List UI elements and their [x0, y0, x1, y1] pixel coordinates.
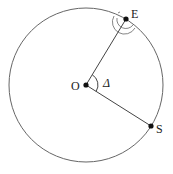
label-e: E	[131, 7, 138, 21]
point-o	[83, 82, 88, 87]
diagram: E O S Δ	[0, 0, 173, 174]
label-angle: Δ	[102, 76, 110, 90]
point-s	[148, 123, 153, 128]
label-s: S	[156, 122, 163, 136]
point-e	[123, 16, 128, 21]
label-o: O	[71, 79, 80, 93]
wave-arc-3	[118, 12, 120, 13]
